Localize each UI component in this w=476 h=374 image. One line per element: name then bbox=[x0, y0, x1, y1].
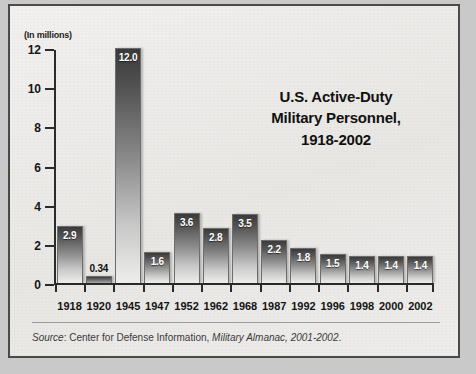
bar-value-label: 1.5 bbox=[321, 258, 345, 269]
x-axis-tick-label: 2002 bbox=[408, 300, 432, 312]
x-axis-tick-label: 1920 bbox=[87, 300, 111, 312]
y-axis-tick bbox=[45, 167, 54, 169]
bar-value-label: 0.34 bbox=[87, 263, 111, 274]
bar: 2.9 bbox=[57, 226, 83, 283]
x-axis-tick bbox=[201, 284, 203, 292]
x-axis-tick bbox=[318, 284, 320, 292]
x-axis-tick-label: 1947 bbox=[145, 300, 169, 312]
bar: 1.4 bbox=[407, 256, 433, 283]
y-axis-tick bbox=[45, 245, 54, 247]
bar-value-label: 3.6 bbox=[175, 217, 199, 228]
source-terminator: . bbox=[338, 332, 341, 343]
x-axis-tick bbox=[347, 284, 349, 292]
x-axis-tick-label: 1952 bbox=[174, 300, 198, 312]
y-axis-tick-label: 12 bbox=[28, 43, 41, 57]
y-axis-tick bbox=[45, 49, 54, 51]
y-axis-tick bbox=[45, 206, 54, 208]
source-publication: Military Almanac, 2001-2002 bbox=[212, 332, 338, 343]
y-axis-tick-label: 8 bbox=[34, 121, 41, 135]
source-note: Source: Center for Defense Information, … bbox=[32, 332, 341, 343]
y-axis-tick bbox=[45, 88, 54, 90]
x-axis-tick-label: 1945 bbox=[116, 300, 140, 312]
bar: 2.2 bbox=[261, 240, 287, 283]
x-axis-tick bbox=[113, 284, 115, 292]
bar: 3.6 bbox=[174, 213, 200, 284]
x-axis-tick-label: 1918 bbox=[57, 300, 81, 312]
x-axis-tick bbox=[230, 284, 232, 292]
y-axis-tick-label: 6 bbox=[34, 161, 41, 175]
bar-value-label: 1.4 bbox=[379, 260, 403, 271]
bar: 1.4 bbox=[378, 256, 404, 283]
x-axis-tick bbox=[260, 284, 262, 292]
bar: 2.8 bbox=[203, 228, 229, 283]
bar: 12.0 bbox=[115, 48, 141, 283]
bar-value-label: 1.8 bbox=[291, 252, 315, 263]
y-axis-tick-label: 0 bbox=[34, 278, 41, 292]
x-axis-tick bbox=[55, 284, 57, 292]
x-axis-tick-label: 1968 bbox=[233, 300, 257, 312]
x-axis-tick bbox=[377, 284, 379, 292]
bar: 1.5 bbox=[320, 254, 346, 283]
bar-value-label: 3.5 bbox=[233, 218, 257, 229]
y-axis-tick bbox=[45, 127, 54, 129]
x-axis-tick-label: 1987 bbox=[262, 300, 286, 312]
bar-value-label: 1.4 bbox=[350, 260, 374, 271]
y-axis-tick-label: 2 bbox=[34, 239, 41, 253]
x-axis-tick bbox=[289, 284, 291, 292]
x-axis-tick bbox=[432, 284, 434, 292]
x-axis-tick bbox=[172, 284, 174, 292]
source-divider bbox=[32, 322, 440, 323]
bar-value-label: 2.2 bbox=[262, 244, 286, 255]
x-axis-tick bbox=[84, 284, 86, 292]
bar: 1.4 bbox=[349, 256, 375, 283]
bar-value-label: 1.6 bbox=[145, 256, 169, 267]
x-axis-tick-label: 1992 bbox=[291, 300, 315, 312]
x-axis-tick bbox=[143, 284, 145, 292]
bar: 1.6 bbox=[144, 252, 170, 283]
y-axis-tick-label: 4 bbox=[34, 200, 41, 214]
plot-area: 024681012 2.919180.34192012.019451.61947… bbox=[54, 50, 434, 285]
chart-figure: (In millions) U.S. Active-Duty Military … bbox=[8, 4, 460, 358]
source-organization: Center for Defense Information, bbox=[69, 332, 212, 343]
x-axis-tick-label: 1998 bbox=[350, 300, 374, 312]
source-prefix: Source bbox=[32, 332, 64, 343]
bar: 0.34 bbox=[86, 276, 112, 283]
x-axis-tick-label: 1996 bbox=[320, 300, 344, 312]
bar: 1.8 bbox=[290, 248, 316, 283]
y-axis-tick bbox=[45, 284, 54, 286]
bar-value-label: 2.8 bbox=[204, 232, 228, 243]
bar-value-label: 2.9 bbox=[58, 230, 82, 241]
bar-value-label: 1.4 bbox=[408, 260, 432, 271]
x-axis-tick-label: 2000 bbox=[379, 300, 403, 312]
y-axis-tick-label: 10 bbox=[28, 82, 41, 96]
bar-value-label: 12.0 bbox=[116, 52, 140, 63]
y-axis-units-label: (In millions) bbox=[24, 30, 72, 40]
x-axis-tick bbox=[406, 284, 408, 292]
bar: 3.5 bbox=[232, 214, 258, 283]
x-axis-tick-label: 1962 bbox=[204, 300, 228, 312]
